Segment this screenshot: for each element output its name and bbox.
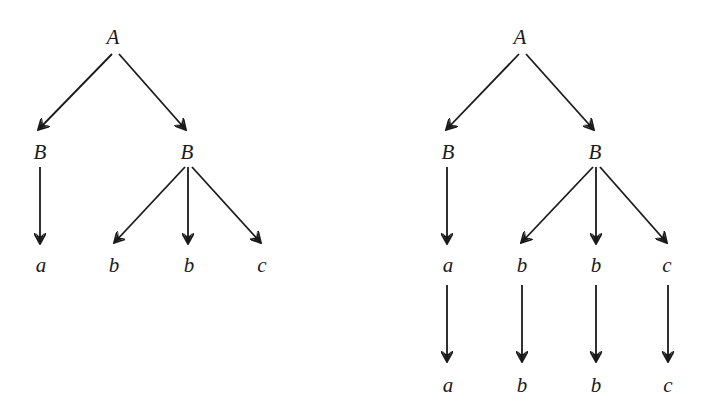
left-tree-arrow-B2-to-c1 (192, 167, 261, 243)
right-tree-node-b1: b (517, 255, 528, 276)
right-tree-node-a2: a (443, 375, 454, 396)
right-tree-node-a1: a (443, 255, 454, 276)
right-tree-node-b4: b (591, 375, 602, 396)
left-tree-arrow-A-to-B2 (119, 54, 186, 130)
right-tree-arrow-B2-to-b1 (521, 167, 593, 243)
diagram-canvas: ABBabbcABBabbcabbc (0, 0, 707, 407)
left-tree-arrow-A-to-B1 (38, 54, 112, 130)
left-tree-node-c1: c (257, 255, 266, 276)
right-tree-arrow-A-to-B1 (446, 54, 519, 130)
right-tree-node-c1: c (662, 255, 671, 276)
left-tree-arrow-B2-to-b1 (114, 167, 185, 243)
right-tree-node-b3: b (517, 375, 528, 396)
right-tree-node-c2: c (663, 375, 672, 396)
right-tree-node-b2: b (591, 255, 602, 276)
edges-layer (0, 0, 707, 407)
right-tree-node-B1: B (442, 142, 455, 163)
right-tree-node-B2: B (589, 142, 602, 163)
right-tree-arrow-B2-to-c1 (600, 167, 667, 243)
left-tree-node-B1: B (34, 142, 47, 163)
left-tree-node-b1: b (109, 255, 120, 276)
left-tree-node-a1: a (36, 255, 47, 276)
left-tree-node-b2: b (184, 255, 195, 276)
left-tree-node-A: A (107, 27, 120, 48)
left-tree-node-B2: B (181, 142, 194, 163)
right-tree-arrow-A-to-B2 (526, 54, 594, 130)
right-tree-node-A: A (514, 27, 527, 48)
